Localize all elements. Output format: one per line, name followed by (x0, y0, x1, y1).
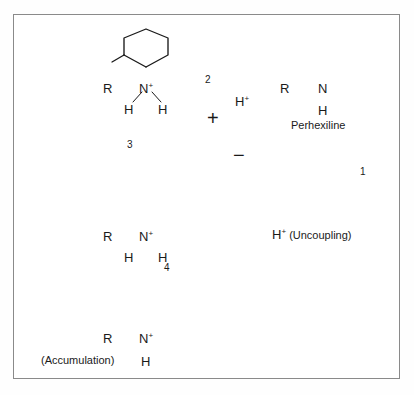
label-n-neutral: N (318, 82, 327, 95)
label-h-right-outside: H (158, 103, 167, 116)
label-h-accumulated: H (141, 355, 150, 368)
molecule-protonated-outside (112, 29, 168, 67)
diagram-root: R N+ H H (0, 0, 414, 395)
label-accumulation: (Accumulation) (41, 355, 114, 366)
label-r-inside: R (103, 230, 112, 243)
step-number-1: 1 (360, 167, 366, 177)
label-h-left-outside: H (124, 103, 133, 116)
label-proton-released: H+ (235, 95, 249, 108)
label-h-neutral: H (318, 104, 327, 117)
step-number-3: 3 (127, 140, 133, 150)
label-n-inside: N+ (139, 230, 153, 243)
label-n-accumulated: N+ (139, 332, 153, 345)
step-number-2: 2 (205, 75, 211, 85)
label-membrane-minus: − (233, 145, 245, 165)
label-r-neutral: R (280, 82, 289, 95)
label-membrane-plus: + (207, 108, 219, 128)
label-r-accumulated: R (103, 332, 112, 345)
label-perhexiline: Perhexiline (291, 120, 345, 131)
label-n-outside: N+ (139, 82, 153, 95)
label-h-left-inside: H (124, 251, 133, 264)
label-r-outside: R (103, 82, 112, 95)
label-h-right-inside: H (158, 251, 167, 264)
label-uncoupling: H+ (Uncoupling) (272, 228, 352, 241)
diagram-canvas (0, 0, 414, 395)
